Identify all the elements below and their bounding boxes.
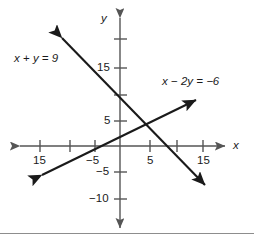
- y-axis: [114, 18, 127, 228]
- equation-label-line1: x + y = 9: [14, 53, 58, 65]
- y-tick-label-neg5: −5: [96, 166, 109, 178]
- coordinate-plane-figure: 15 −5 5 15 15 5 −5 −10 y x x + y = 9 x −…: [0, 0, 254, 243]
- x-tick-label-pos15: 15: [197, 155, 210, 167]
- equation-label-line2-operator: −: [168, 75, 181, 87]
- x-axis: [20, 140, 225, 152]
- y-axis-letter: y: [101, 13, 107, 25]
- equation-label-line2-rest: 2y = −6: [181, 75, 219, 87]
- x-axis-letter: x: [233, 140, 239, 152]
- bottom-divider: [0, 233, 254, 234]
- line-x-minus-2y-equals-neg6: [42, 100, 196, 175]
- equation-label-line2: x − 2y = −6: [162, 76, 219, 88]
- graph-canvas: [0, 0, 254, 243]
- y-tick-label-15: 15: [97, 62, 110, 74]
- equation-label-line1-operator: +: [20, 52, 33, 64]
- line-x-plus-y-equals-9: [62, 38, 205, 185]
- x-tick-label-pos5: 5: [147, 155, 154, 167]
- y-tick-label-neg10: −10: [89, 193, 109, 205]
- equation-label-line1-rest: y = 9: [33, 52, 58, 64]
- y-tick-label-5: 5: [104, 115, 111, 127]
- x-tick-label-neg15: 15: [33, 155, 46, 167]
